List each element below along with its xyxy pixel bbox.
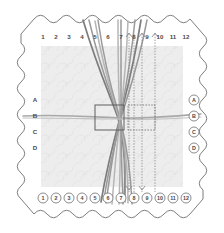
bottom-label-7: 7: [116, 193, 126, 203]
right-label-c: C: [189, 127, 199, 137]
top-label-1: 1: [41, 33, 45, 40]
right-label-a-text: A: [192, 97, 196, 103]
top-label-3: 3: [67, 33, 71, 40]
bottom-label-2: 2: [51, 193, 61, 203]
bottom-label-6-text: 6: [107, 195, 110, 201]
bottom-label-8: 8: [129, 193, 139, 203]
bottom-label-9: 9: [142, 193, 152, 203]
top-label-10: 10: [157, 33, 164, 40]
right-label-b: B: [189, 111, 199, 121]
bottom-label-10: 10: [155, 193, 165, 203]
top-label-8: 8: [132, 33, 136, 40]
bottom-label-3: 3: [64, 193, 74, 203]
left-label-b: B: [33, 112, 38, 119]
top-label-9: 9: [145, 33, 149, 40]
right-label-a: A: [189, 95, 199, 105]
left-label-d: D: [33, 144, 38, 151]
bottom-label-5: 5: [90, 193, 100, 203]
bottom-label-7-text: 7: [120, 195, 123, 201]
top-label-4: 4: [80, 33, 84, 40]
bottom-label-4: 4: [77, 193, 87, 203]
bottom-label-11: 11: [168, 193, 178, 203]
bottom-label-5-text: 5: [94, 195, 97, 201]
top-label-11: 11: [170, 33, 177, 40]
bottom-label-2-text: 2: [55, 195, 58, 201]
right-label-d-text: D: [192, 145, 196, 151]
loom-diagram-figure: Scalloped-edge loom diagram with numbere…: [0, 0, 224, 233]
top-label-12: 12: [183, 33, 190, 40]
top-label-5: 5: [93, 33, 97, 40]
right-label-c-text: C: [192, 129, 196, 135]
bottom-label-1: 1: [38, 193, 48, 203]
diagram-root: Scalloped-edge loom diagram with numbere…: [0, 0, 224, 233]
top-label-2: 2: [54, 33, 58, 40]
bottom-label-10-text: 10: [157, 195, 163, 201]
bottom-label-12: 12: [181, 193, 191, 203]
bottom-label-12-text: 12: [183, 195, 189, 201]
bottom-label-3-text: 3: [68, 195, 71, 201]
bottom-label-4-text: 4: [81, 195, 84, 201]
bottom-label-11-text: 11: [170, 195, 176, 201]
bottom-label-8-text: 8: [133, 195, 136, 201]
right-label-d: D: [189, 143, 199, 153]
bottom-label-9-text: 9: [146, 195, 149, 201]
right-label-b-text: B: [192, 113, 196, 119]
bottom-label-6: 6: [103, 193, 113, 203]
left-label-a: A: [33, 96, 38, 103]
left-label-c: C: [33, 128, 38, 135]
top-label-6: 6: [106, 33, 110, 40]
bottom-label-1-text: 1: [42, 195, 45, 201]
top-label-7: 7: [119, 33, 123, 40]
